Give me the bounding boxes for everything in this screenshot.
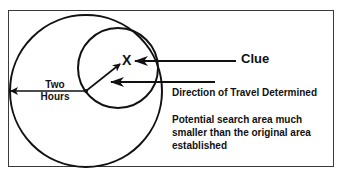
direction-of-travel-label: Direction of Travel Determined bbox=[172, 87, 317, 98]
diagonal-arrow-to-clue bbox=[86, 64, 120, 91]
two-hours-label: Two Hours bbox=[38, 79, 72, 103]
clue-label: Clue bbox=[241, 51, 269, 66]
clue-location-marker: X bbox=[122, 52, 131, 68]
search-area-diagram: X Clue Two Hours Direction of Travel Det… bbox=[0, 0, 344, 182]
reduced-search-area-circle bbox=[78, 28, 158, 108]
potential-search-area-note: Potential search area much smaller than … bbox=[172, 113, 322, 152]
